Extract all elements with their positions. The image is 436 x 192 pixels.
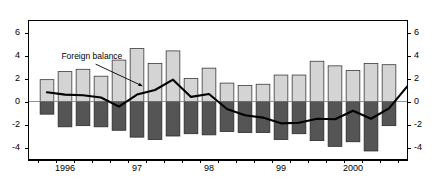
y-tick-label: 2	[6, 73, 20, 83]
bar-exports	[274, 75, 288, 101]
y-tick-mark	[25, 56, 28, 57]
y-tick-label: -2	[6, 119, 20, 129]
y-tick-mark	[25, 125, 28, 126]
plot-frame	[28, 20, 408, 160]
plot-area	[29, 21, 407, 159]
y-tick-label-right: 6	[414, 27, 428, 37]
bar-exports	[346, 70, 360, 101]
x-tick-label: 1996	[55, 163, 75, 173]
bar-exports	[256, 84, 270, 101]
bar-exports	[220, 83, 234, 101]
y-tick-mark	[408, 125, 411, 126]
bar-exports	[292, 75, 306, 101]
bar-imports	[364, 102, 378, 151]
bar-imports	[148, 102, 162, 140]
bar-imports	[166, 102, 180, 137]
y-tick-label: 4	[6, 50, 20, 60]
chart-panel: C. Exports and imports of goods and serv…	[0, 0, 436, 192]
y-tick-mark	[408, 148, 411, 149]
bar-imports	[58, 102, 72, 127]
bar-exports	[184, 79, 198, 102]
y-tick-mark	[25, 33, 28, 34]
bar-imports	[238, 102, 252, 133]
bar-exports	[58, 72, 72, 102]
bar-exports	[112, 60, 126, 101]
bar-imports	[76, 102, 90, 126]
x-tick-label: 98	[204, 163, 214, 173]
bar-exports	[382, 65, 396, 102]
bar-exports	[40, 80, 54, 102]
bar-exports	[202, 68, 216, 101]
bar-imports	[382, 102, 396, 126]
bar-imports	[274, 102, 288, 140]
y-tick-label: 0	[6, 96, 20, 106]
y-tick-mark	[25, 102, 28, 103]
y-tick-label-right: 4	[414, 50, 428, 60]
y-tick-mark	[408, 102, 411, 103]
bar-exports	[310, 61, 324, 101]
bar-imports	[292, 102, 306, 134]
bar-imports	[202, 102, 216, 135]
bar-imports	[184, 102, 198, 134]
bar-imports	[346, 102, 360, 142]
bar-imports	[40, 102, 54, 115]
y-tick-label-right: -2	[414, 119, 428, 129]
y-tick-label: -4	[6, 142, 20, 152]
annotation-foreign-balance: Foreign balance	[61, 51, 122, 61]
x-tick-label: 2000	[343, 163, 363, 173]
y-tick-mark	[408, 56, 411, 57]
y-tick-label: 6	[6, 27, 20, 37]
y-tick-mark	[408, 33, 411, 34]
x-tick-label: 97	[132, 163, 142, 173]
bar-imports	[94, 102, 108, 127]
bar-exports	[364, 64, 378, 102]
bar-exports	[328, 66, 342, 102]
bar-exports	[238, 85, 252, 101]
bar-exports	[166, 51, 180, 102]
y-tick-mark	[408, 79, 411, 80]
y-tick-label-right: 2	[414, 73, 428, 83]
x-tick-label: 99	[276, 163, 286, 173]
x-axis-baseline	[28, 160, 408, 161]
bar-imports	[130, 102, 144, 138]
bar-exports	[148, 64, 162, 102]
y-tick-label-right: 0	[414, 96, 428, 106]
y-tick-label-right: -4	[414, 142, 428, 152]
bar-imports	[328, 102, 342, 147]
y-tick-mark	[25, 79, 28, 80]
bar-imports	[310, 102, 324, 141]
y-tick-mark	[25, 148, 28, 149]
